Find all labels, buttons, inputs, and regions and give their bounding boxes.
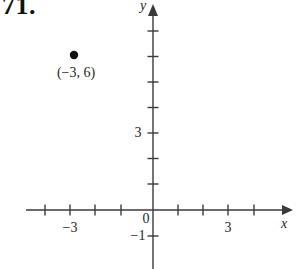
x-axis-arrowhead: [282, 205, 293, 215]
y-axis-label: y: [140, 0, 146, 13]
coordinate-plane-figure: 71. (−3, 6) y x −3 3 0 3 −1: [0, 0, 301, 269]
coordinate-axes-graphic: [0, 0, 301, 269]
plotted-point-marker: [70, 51, 78, 59]
y-tick-label-3: 3: [135, 126, 142, 140]
x-axis-label: x: [281, 217, 287, 231]
y-axis-arrowhead: [148, 4, 158, 16]
point-coordinate-label: (−3, 6): [57, 66, 95, 80]
y-tick-label-neg1: −1: [131, 229, 146, 243]
problem-number: 71.: [2, 0, 36, 19]
origin-label: 0: [143, 212, 150, 226]
x-tick-label-neg3: −3: [63, 221, 78, 235]
x-tick-label-3: 3: [225, 221, 232, 235]
